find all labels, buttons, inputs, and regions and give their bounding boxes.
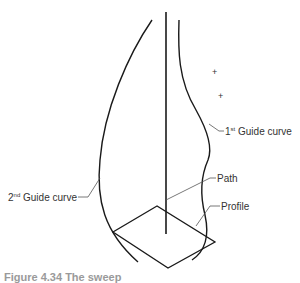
first-guide-label: 1st Guide curve <box>225 126 292 137</box>
marker-plus-2: + <box>218 91 223 101</box>
path-label: Path <box>217 173 238 184</box>
second-guide-label: 2nd Guide curve <box>8 192 77 203</box>
second-guide-leader <box>78 178 100 197</box>
marker-plus-1: + <box>212 67 217 77</box>
second-guide-curve <box>99 20 152 262</box>
profile-shape <box>113 206 215 268</box>
profile-leader <box>196 206 220 226</box>
profile-label: Profile <box>221 201 250 212</box>
first-guide-curve <box>179 20 210 260</box>
path-leader <box>166 178 216 200</box>
figure-caption: Figure 4.34 The sweep <box>4 271 121 283</box>
first-guide-leader <box>209 124 224 131</box>
